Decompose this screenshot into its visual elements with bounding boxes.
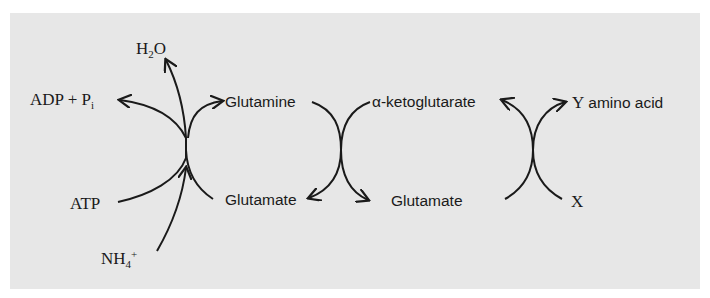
x-to-y-arrow xyxy=(533,102,565,199)
akg-to-glutamate-arrow xyxy=(341,102,370,200)
label-adp-pi: ADP + Pi xyxy=(30,91,94,108)
glutamate-left-arrow xyxy=(186,150,213,199)
adp-pi-sub: i xyxy=(91,99,94,111)
label-water: H2O xyxy=(136,40,166,57)
glutamate-to-akg-arrow xyxy=(502,100,533,199)
adp-pi-arrow xyxy=(120,100,186,138)
water-o: O xyxy=(154,39,166,58)
water-h: H xyxy=(136,39,148,58)
nh4-arrow xyxy=(157,168,186,251)
ammonium-main: NH xyxy=(101,249,126,268)
label-glutamine: Glutamine xyxy=(225,94,296,110)
y-letter: Y xyxy=(572,93,584,112)
label-x: X xyxy=(571,193,583,210)
amino-acid-text: amino acid xyxy=(588,94,663,111)
water-sub: 2 xyxy=(148,48,154,60)
label-glutamate-middle: Glutamate xyxy=(391,193,463,209)
ammonium-sup: + xyxy=(131,248,137,260)
label-alpha-ketoglutarate: α-ketoglutarate xyxy=(372,94,476,110)
atp-arrow xyxy=(118,158,186,202)
glutamine-arrow xyxy=(188,101,222,138)
label-ammonium: NH4+ xyxy=(101,250,137,267)
label-glutamate-left: Glutamate xyxy=(225,192,297,208)
adp-pi-main: ADP + P xyxy=(30,90,91,109)
water-arrow xyxy=(166,60,186,138)
label-atp: ATP xyxy=(70,195,100,212)
glutamine-to-glutamate-arrow xyxy=(309,102,341,198)
label-y-amino-acid: Y amino acid xyxy=(572,94,663,111)
